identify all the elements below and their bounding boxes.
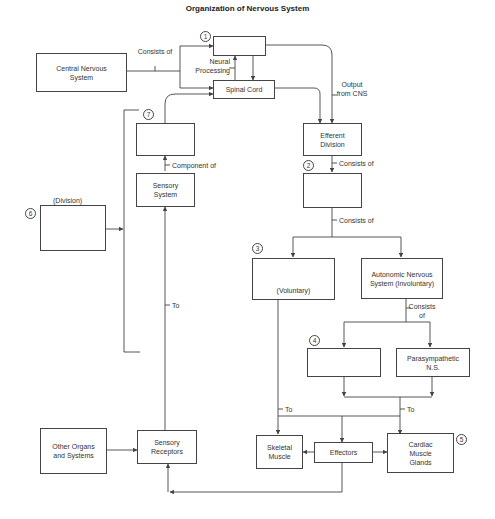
number-badge-7: 7 xyxy=(143,109,154,120)
efferent-division-label: Efferent Division xyxy=(313,131,353,149)
other-organs-box: Other Organs and Systems xyxy=(40,428,107,474)
effectors-label: Effectors xyxy=(330,448,358,457)
voluntary-label: (Voluntary) xyxy=(277,286,311,295)
to-label-sensory: To xyxy=(172,301,179,310)
blank-box-6[interactable] xyxy=(40,205,106,251)
voluntary-box-3[interactable]: (Voluntary) xyxy=(252,258,335,300)
division-label: (Division) xyxy=(53,196,82,205)
number-badge-1: 1 xyxy=(200,31,211,42)
sensory-receptors-box: Sensory Receptors xyxy=(137,430,197,464)
sensory-system-label: Sensory System xyxy=(146,181,186,199)
consists-of-label-2: Consists of xyxy=(339,159,374,168)
skeletal-muscle-box: Skeletal Muscle xyxy=(256,435,303,469)
neural-processing-label: Neural Processing xyxy=(186,57,230,75)
autonomic-label: Autonomic Nervous System (Involuntary) xyxy=(366,270,438,288)
spinal-cord-box: Spinal Cord xyxy=(213,80,275,99)
effectors-box: Effectors xyxy=(314,442,373,463)
number-badge-5: 5 xyxy=(456,434,467,445)
efferent-division-box: Efferent Division xyxy=(303,123,362,156)
blank-box-4[interactable] xyxy=(307,348,381,377)
number-badge-2: 2 xyxy=(303,160,314,171)
sensory-receptors-label: Sensory Receptors xyxy=(145,438,189,456)
number-badge-4: 4 xyxy=(309,335,320,346)
to-label-skeletal: To xyxy=(285,405,292,414)
consists-of-label-top: Consists of xyxy=(137,47,173,56)
number-badge-3: 3 xyxy=(252,243,263,254)
number-badge-6: 6 xyxy=(25,208,36,219)
blank-box-2[interactable] xyxy=(303,173,362,208)
cardiac-label: Cardiac Muscle Glands xyxy=(405,440,437,467)
output-from-cns-label: Output from CNS xyxy=(336,80,368,98)
spinal-cord-label: Spinal Cord xyxy=(226,85,263,94)
central-nervous-system-box: Central Nervous System xyxy=(36,53,127,92)
consists-of-label-ans: Consists of xyxy=(406,302,438,320)
to-label-cardiac: To xyxy=(407,405,414,414)
parasympathetic-label: Parasympathetic N.S. xyxy=(401,354,465,372)
consists-of-label-3: Consists of xyxy=(339,216,374,225)
cardiac-muscle-glands-box: Cardiac Muscle Glands xyxy=(387,433,454,473)
component-of-label: Component of xyxy=(172,161,216,170)
autonomic-nervous-system-box: Autonomic Nervous System (Involuntary) xyxy=(361,258,443,299)
other-organs-label: Other Organs and Systems xyxy=(48,442,100,460)
parasympathetic-box: Parasympathetic N.S. xyxy=(396,348,470,377)
cns-label: Central Nervous System xyxy=(47,64,117,82)
sensory-system-box: Sensory System xyxy=(136,173,195,207)
blank-box-7[interactable] xyxy=(136,123,195,156)
blank-box-1[interactable] xyxy=(213,36,266,56)
skeletal-muscle-label: Skeletal Muscle xyxy=(264,443,296,461)
